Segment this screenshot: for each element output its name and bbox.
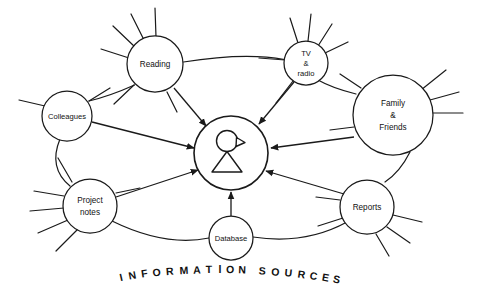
node-family-friends-label-line2: & bbox=[390, 111, 396, 120]
spoke-reading-1 bbox=[113, 26, 135, 47]
spoke-tv-2 bbox=[308, 14, 311, 41]
node-family-friends-label-line1: Family bbox=[381, 99, 406, 108]
caption-letter: O bbox=[271, 265, 280, 278]
center-circle[interactable] bbox=[194, 116, 268, 190]
spoke-reading-4 bbox=[101, 49, 129, 58]
arrow-tv-to-center bbox=[259, 82, 294, 124]
spoke-reports-5 bbox=[318, 218, 343, 226]
spoke-project-4 bbox=[38, 220, 68, 233]
ring-link-tv-family bbox=[318, 80, 356, 94]
caption-letter: F bbox=[140, 267, 149, 280]
caption-letter: R bbox=[165, 265, 174, 278]
caption-letter: E bbox=[321, 271, 330, 284]
spoke-reading-3 bbox=[155, 8, 156, 37]
caption-information-sources: I N F O R M A T I O N S O U R C E S bbox=[118, 263, 341, 286]
spoke-family-2 bbox=[430, 92, 459, 100]
caption-letter: I bbox=[118, 271, 124, 283]
arrow-project-to-center bbox=[116, 170, 198, 197]
node-project-notes-label-line1: Project bbox=[77, 196, 103, 205]
caption-letter: A bbox=[193, 263, 201, 275]
node-reports-label: Reports bbox=[353, 203, 382, 212]
spoke-project-5 bbox=[56, 229, 78, 251]
caption-letter: C bbox=[309, 269, 319, 282]
caption-letter: M bbox=[179, 264, 189, 276]
ring-link-reading-colleagues bbox=[89, 85, 135, 101]
node-tv-radio[interactable]: TV & radio bbox=[284, 41, 328, 85]
spoke-colleagues-1 bbox=[19, 100, 45, 106]
caption-letter: S bbox=[258, 264, 266, 276]
spoke-project-1 bbox=[58, 158, 72, 182]
spoke-reports-3 bbox=[387, 227, 410, 243]
arrow-reports-to-center bbox=[266, 171, 344, 194]
caption-letter: S bbox=[332, 273, 341, 286]
spoke-tv-3 bbox=[318, 24, 332, 46]
spoke-tv-1 bbox=[290, 18, 298, 43]
spoke-family-1 bbox=[421, 70, 446, 90]
caption-letter: T bbox=[206, 263, 213, 275]
caption-letter: R bbox=[297, 268, 307, 281]
node-colleagues[interactable]: Colleagues bbox=[42, 91, 92, 141]
node-tv-radio-label-line3: radio bbox=[298, 69, 315, 78]
node-reading[interactable]: Reading bbox=[127, 36, 183, 92]
spoke-family-4 bbox=[340, 74, 361, 88]
node-family-friends-label-line3: Friends bbox=[379, 123, 406, 132]
spoke-reports-1 bbox=[316, 197, 340, 200]
node-project-notes-circle[interactable] bbox=[63, 179, 117, 233]
caption-letter: I bbox=[219, 263, 222, 275]
spoke-colleagues-2 bbox=[89, 88, 110, 101]
spoke-reading-2 bbox=[131, 14, 144, 40]
node-database[interactable]: Database bbox=[209, 216, 253, 260]
node-tv-radio-label-line2: & bbox=[303, 59, 308, 68]
node-tv-radio-label-line1: TV bbox=[301, 49, 312, 58]
caption-letter: U bbox=[284, 266, 293, 279]
spoke-project-2 bbox=[34, 191, 64, 196]
spoke-family-5 bbox=[330, 127, 354, 130]
spoke-project-3 bbox=[30, 208, 64, 211]
arrow-family-to-center bbox=[271, 137, 354, 148]
caption-letter: O bbox=[152, 266, 162, 279]
ring-link-colleagues-project bbox=[56, 139, 70, 186]
node-family-friends[interactable]: Family & Friends bbox=[353, 75, 433, 155]
person-head-icon bbox=[217, 131, 238, 152]
caption-letter: O bbox=[226, 263, 234, 275]
node-project-notes[interactable]: Project notes bbox=[63, 179, 117, 233]
spoke-reading-6 bbox=[167, 92, 177, 112]
node-reports[interactable]: Reports bbox=[340, 180, 394, 234]
spoke-reports-2 bbox=[393, 215, 422, 222]
ring-link-family-reports bbox=[385, 152, 410, 182]
arrow-reading-to-center bbox=[174, 88, 206, 126]
node-database-label: Database bbox=[215, 234, 248, 243]
ring-link-database-reports bbox=[253, 222, 347, 239]
arrow-colleagues-to-center bbox=[92, 122, 194, 148]
node-reading-label: Reading bbox=[140, 60, 171, 69]
information-sources-diagram: Reading TV & radio Family & Friends Coll… bbox=[0, 0, 481, 295]
spoke-reading-5 bbox=[114, 85, 134, 104]
ring-link-project-database bbox=[112, 221, 209, 240]
spoke-reports-4 bbox=[376, 234, 389, 256]
node-project-notes-label-line2: notes bbox=[80, 208, 100, 217]
node-center-information-user[interactable] bbox=[194, 116, 268, 190]
caption-letter: N bbox=[238, 263, 246, 275]
node-colleagues-label: Colleagues bbox=[48, 112, 86, 121]
spoke-tv-4 bbox=[325, 42, 348, 53]
diagram-canvas: Reading TV & radio Family & Friends Coll… bbox=[0, 0, 481, 295]
caption-letter: N bbox=[127, 268, 137, 281]
